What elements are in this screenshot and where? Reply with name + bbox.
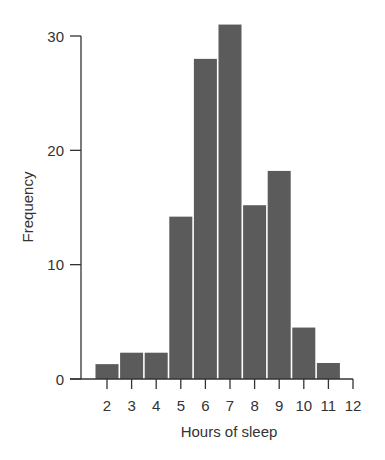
y-axis-title: Frequency (19, 171, 36, 242)
x-tick-label: 6 (201, 397, 209, 414)
x-axis-title: Hours of sleep (181, 423, 278, 440)
bar-9-hours (268, 171, 291, 379)
x-tick-label: 7 (226, 397, 234, 414)
y-ticks: 0102030 (47, 28, 81, 388)
y-tick-label: 10 (47, 256, 64, 273)
bar-10-hours (292, 328, 315, 379)
bar-6-hours (194, 59, 217, 379)
y-tick-label: 20 (47, 142, 64, 159)
bar-2-hours (96, 364, 119, 379)
bar-8-hours (243, 205, 266, 379)
bar-7-hours (219, 25, 242, 379)
x-tick-label: 11 (321, 397, 337, 414)
x-tick-label: 2 (103, 397, 111, 414)
bar-5-hours (169, 217, 192, 379)
x-tick-label: 5 (177, 397, 185, 414)
bar-3-hours (120, 353, 143, 379)
x-tick-label: 12 (345, 397, 362, 414)
x-ticks: 23456789101112 (103, 379, 362, 414)
x-tick-label: 3 (127, 397, 135, 414)
bars-group (96, 25, 340, 379)
x-tick-label: 4 (152, 397, 160, 414)
x-tick-label: 8 (250, 397, 258, 414)
bar-4-hours (145, 353, 168, 379)
histogram-chart: 0102030 23456789101112 Frequency Hours o… (0, 0, 385, 460)
x-tick-label: 10 (295, 397, 312, 414)
y-tick-label: 0 (56, 371, 64, 388)
x-tick-label: 9 (275, 397, 283, 414)
bar-11-hours (317, 363, 340, 379)
y-tick-label: 30 (47, 28, 64, 45)
